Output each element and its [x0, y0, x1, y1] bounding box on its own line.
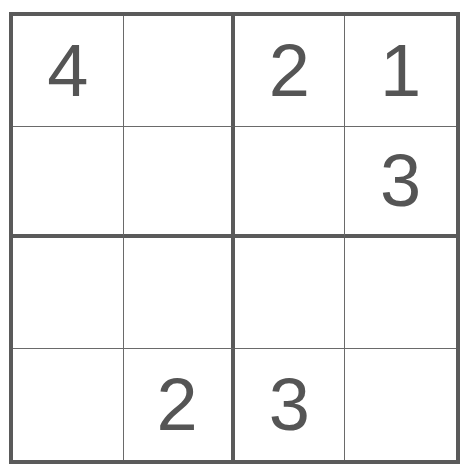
cell-r1c3[interactable]: 2	[235, 16, 346, 127]
cell-r2c3[interactable]	[235, 127, 346, 238]
cell-r4c3[interactable]: 3	[235, 349, 346, 460]
cell-r1c2[interactable]	[124, 16, 235, 127]
cell-r4c4[interactable]	[345, 349, 456, 460]
cell-r3c4[interactable]	[345, 238, 456, 349]
cell-r3c1[interactable]	[13, 238, 124, 349]
cell-r3c3[interactable]	[235, 238, 346, 349]
cell-r4c1[interactable]	[13, 349, 124, 460]
cell-r1c4[interactable]: 1	[345, 16, 456, 127]
cell-r4c2[interactable]: 2	[124, 349, 235, 460]
cell-r1c1[interactable]: 4	[13, 16, 124, 127]
cell-r3c2[interactable]	[124, 238, 235, 349]
cell-r2c1[interactable]	[13, 127, 124, 238]
cell-r2c4[interactable]: 3	[345, 127, 456, 238]
sudoku-grid: 4 2 1 3 2 3	[9, 12, 460, 464]
cell-r2c2[interactable]	[124, 127, 235, 238]
